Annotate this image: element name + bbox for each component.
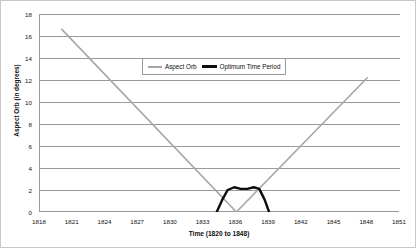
y-tick-label: 4	[6, 165, 32, 172]
x-tick-label: 1833	[188, 218, 218, 225]
legend-swatch-icon	[148, 66, 162, 68]
y-tick-label: 18	[6, 11, 32, 18]
legend-entry-optimum-time-period[interactable]: Optimum Time Period	[202, 63, 281, 71]
legend-entry-aspect-orb[interactable]: Aspect Orb	[148, 63, 197, 71]
series-layer	[62, 29, 367, 212]
x-tick-label: 1845	[319, 218, 349, 225]
axis-ticks	[40, 15, 400, 213]
x-tick-label: 1848	[351, 218, 381, 225]
series-line	[62, 29, 367, 212]
plot-svg	[40, 14, 400, 212]
chart-container: 0246810121416181818182118241827183018331…	[0, 0, 416, 248]
x-axis-title: Time (1820 to 1848)	[39, 230, 399, 237]
y-axis-title: Aspect Orb (in degrees)	[13, 41, 20, 161]
y-tick-label: 16	[6, 33, 32, 40]
x-tick-label: 1842	[286, 218, 316, 225]
chart-legend: Aspect Orb Optimum Time Period	[142, 58, 286, 75]
x-tick-label: 1851	[384, 218, 414, 225]
x-tick-label: 1827	[122, 218, 152, 225]
plot-area	[39, 14, 399, 212]
legend-label: Aspect Orb	[165, 63, 197, 71]
y-tick-label: 0	[6, 209, 32, 216]
legend-label: Optimum Time Period	[220, 63, 281, 71]
legend-swatch-icon	[202, 65, 217, 68]
x-tick-label: 1839	[253, 218, 283, 225]
x-tick-label: 1836	[220, 218, 250, 225]
y-tick-label: 2	[6, 187, 32, 194]
x-tick-label: 1821	[57, 218, 87, 225]
x-tick-label: 1830	[155, 218, 185, 225]
x-tick-label: 1818	[24, 218, 54, 225]
gridlines	[40, 15, 400, 191]
x-tick-label: 1824	[89, 218, 119, 225]
